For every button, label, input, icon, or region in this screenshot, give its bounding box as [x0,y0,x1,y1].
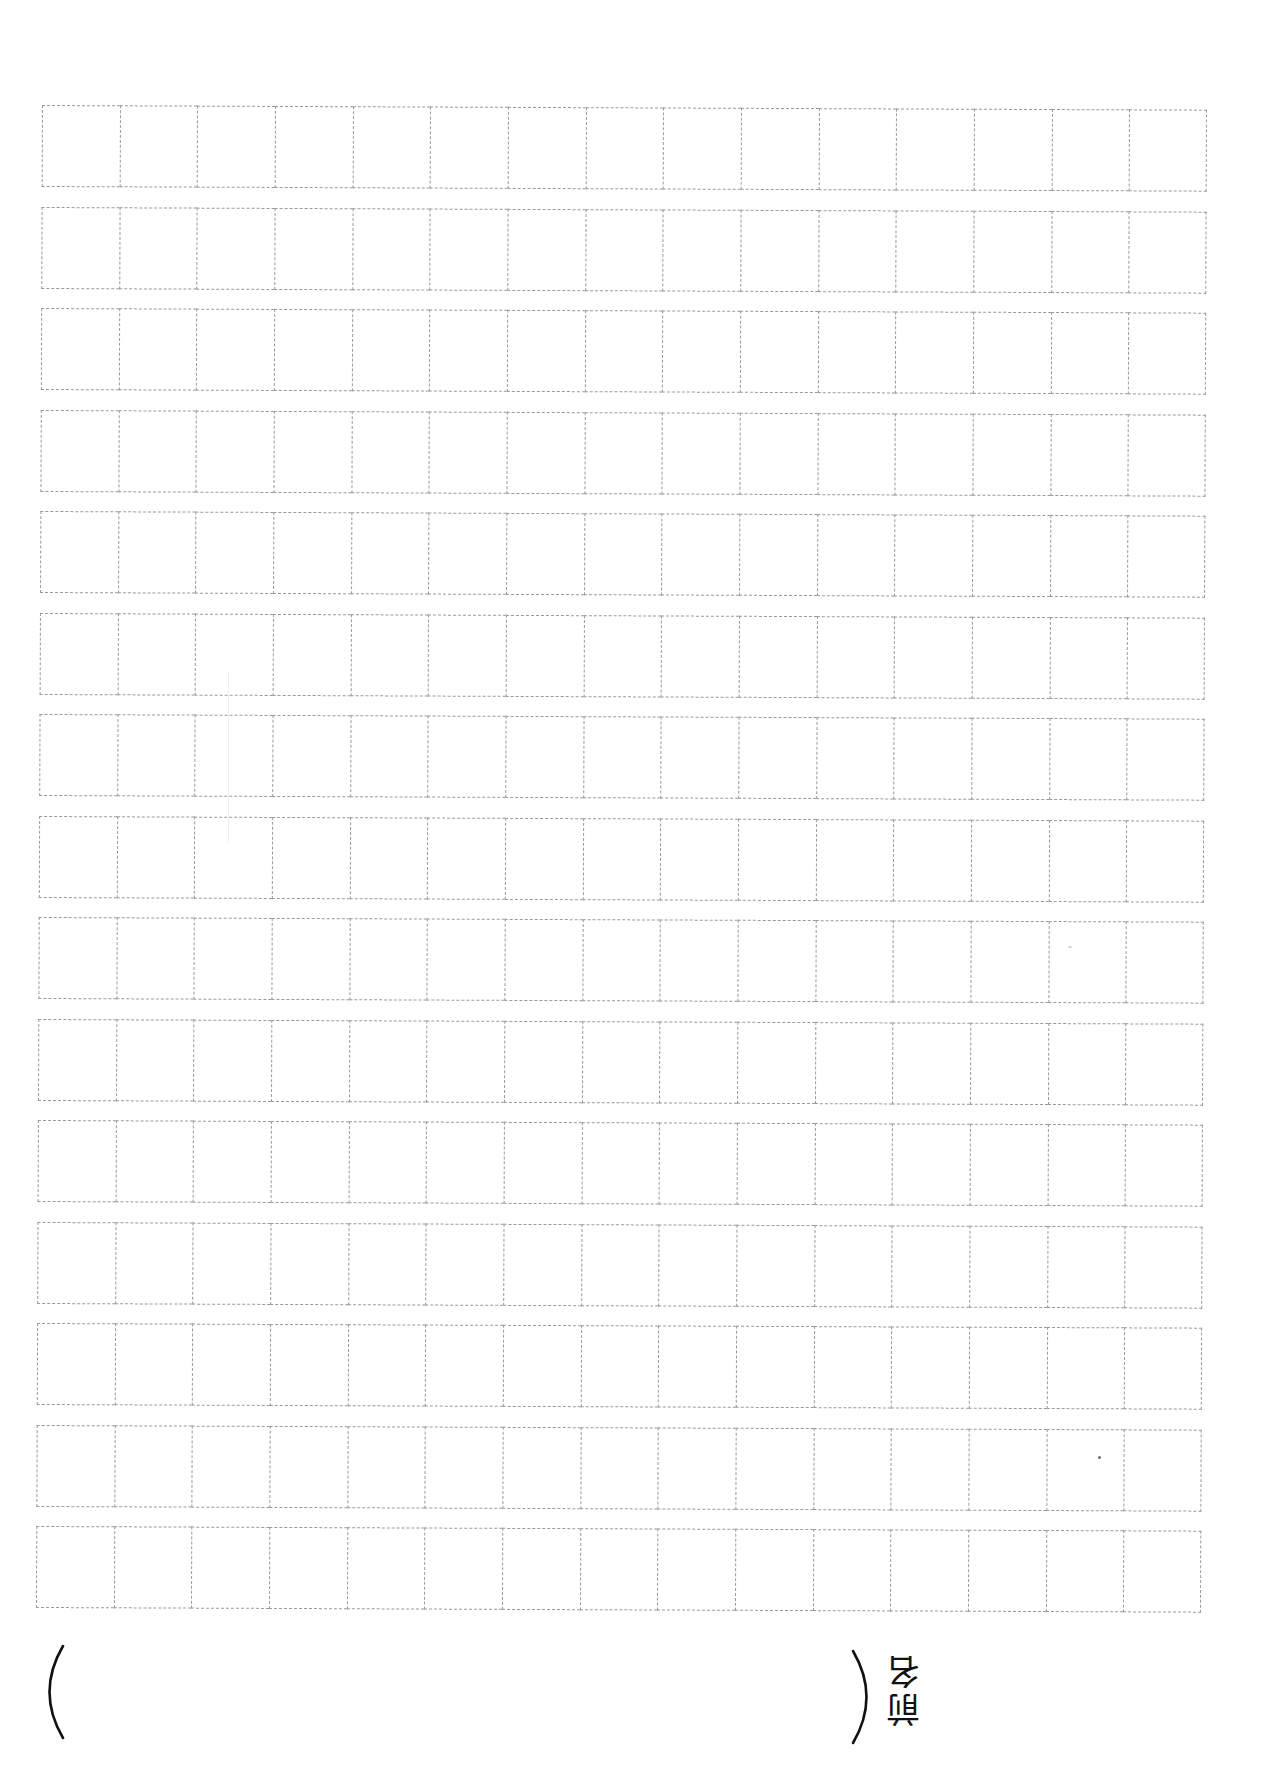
grid-cell[interactable] [890,1529,968,1611]
grid-cell[interactable] [660,716,738,798]
grid-cell[interactable] [974,109,1052,191]
grid-cell[interactable] [119,105,197,187]
grid-cell[interactable] [893,717,971,799]
grid-cell[interactable] [352,208,430,290]
grid-cell[interactable] [116,917,194,999]
grid-cell[interactable] [1123,1530,1201,1612]
grid-cell[interactable] [970,921,1048,1003]
grid-cell[interactable] [196,309,274,391]
grid-cell[interactable] [741,108,819,190]
grid-cell[interactable] [351,512,429,594]
grid-cell[interactable] [813,1428,891,1510]
grid-cell[interactable] [893,920,971,1002]
grid-cell[interactable] [816,616,894,698]
grid-cell[interactable] [1128,414,1206,496]
grid-cell[interactable] [659,1122,737,1204]
grid-cell[interactable] [192,1324,270,1406]
grid-cell[interactable] [1046,1429,1124,1511]
grid-cell[interactable] [582,919,660,1001]
grid-cell[interactable] [585,209,663,291]
name-input-area[interactable] [80,1650,840,1742]
grid-cell[interactable] [117,714,195,796]
grid-cell[interactable] [38,1120,116,1202]
grid-cell[interactable] [40,612,118,694]
grid-cell[interactable] [1126,921,1204,1003]
grid-cell[interactable] [350,715,428,797]
grid-cell[interactable] [891,1225,969,1307]
grid-cell[interactable] [971,819,1049,901]
grid-cell[interactable] [347,1324,425,1406]
grid-cell[interactable] [816,717,894,799]
grid-cell[interactable] [195,512,273,594]
grid-cell[interactable] [1045,1530,1123,1612]
grid-cell[interactable] [41,206,119,288]
grid-cell[interactable] [658,1427,736,1509]
grid-cell[interactable] [270,1222,348,1304]
grid-cell[interactable] [197,106,275,188]
grid-cell[interactable] [504,919,582,1001]
grid-cell[interactable] [894,514,972,596]
grid-cell[interactable] [505,716,583,798]
grid-cell[interactable] [1050,414,1128,496]
grid-cell[interactable] [1051,109,1129,191]
grid-cell[interactable] [429,411,507,493]
grid-cell[interactable] [971,718,1049,800]
grid-cell[interactable] [1049,617,1127,699]
grid-cell[interactable] [584,412,662,494]
grid-cell[interactable] [429,310,507,392]
grid-cell[interactable] [740,311,818,393]
grid-cell[interactable] [114,1425,192,1507]
grid-cell[interactable] [37,1221,115,1303]
grid-cell[interactable] [818,108,896,190]
grid-cell[interactable] [1128,312,1206,394]
grid-cell[interactable] [735,1529,813,1611]
grid-cell[interactable] [272,715,350,797]
grid-cell[interactable] [40,511,118,593]
grid-cell[interactable] [271,1121,349,1203]
grid-cell[interactable] [896,108,974,190]
grid-cell[interactable] [424,1528,502,1610]
grid-cell[interactable] [1048,1023,1126,1105]
grid-cell[interactable] [969,1327,1047,1409]
grid-cell[interactable] [815,1022,893,1104]
grid-cell[interactable] [969,1124,1047,1206]
grid-cell[interactable] [580,1528,658,1610]
grid-cell[interactable] [585,107,663,189]
grid-cell[interactable] [736,1123,814,1205]
grid-cell[interactable] [1124,1226,1202,1308]
grid-cell[interactable] [1049,718,1127,800]
grid-cell[interactable] [191,1527,269,1609]
grid-cell[interactable] [660,818,738,900]
grid-cell[interactable] [349,817,427,899]
grid-cell[interactable] [1050,515,1128,597]
grid-cell[interactable] [659,1021,737,1103]
grid-cell[interactable] [118,511,196,593]
grid-cell[interactable] [1129,109,1207,191]
grid-cell[interactable] [39,714,117,796]
grid-cell[interactable] [1127,515,1205,597]
grid-cell[interactable] [505,817,583,899]
grid-cell[interactable] [351,309,429,391]
grid-cell[interactable] [352,106,430,188]
grid-cell[interactable] [425,1223,503,1305]
grid-cell[interactable] [662,310,740,392]
grid-cell[interactable] [114,1526,192,1608]
grid-cell[interactable] [972,616,1050,698]
grid-cell[interactable] [271,918,349,1000]
grid-cell[interactable] [506,411,584,493]
grid-cell[interactable] [430,208,508,290]
grid-cell[interactable] [735,1427,813,1509]
grid-cell[interactable] [504,1020,582,1102]
grid-cell[interactable] [430,107,508,189]
grid-cell[interactable] [1048,921,1126,1003]
grid-cell[interactable] [275,106,353,188]
grid-cell[interactable] [891,1428,969,1510]
grid-cell[interactable] [425,1325,503,1407]
grid-cell[interactable] [193,1121,271,1203]
grid-cell[interactable] [425,1426,503,1508]
grid-cell[interactable] [894,616,972,698]
grid-cell[interactable] [895,210,973,292]
grid-cell[interactable] [196,410,274,492]
grid-cell[interactable] [972,515,1050,597]
grid-cell[interactable] [813,1326,891,1408]
